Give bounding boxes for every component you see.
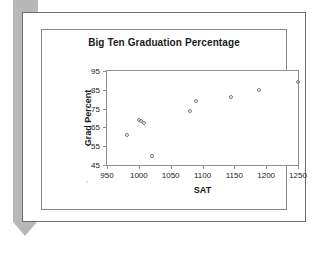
x-axis-tick bbox=[203, 165, 204, 169]
y-axis-tick bbox=[103, 127, 107, 128]
scatter-point bbox=[296, 80, 300, 84]
scatter-point bbox=[150, 154, 154, 158]
page-outer-frame: Big Ten Graduation Percentage Grad Perce… bbox=[22, 12, 306, 222]
scatter-point bbox=[229, 95, 233, 99]
plot-area: Grad Percent SAT 45556575859595010001050… bbox=[106, 70, 299, 166]
x-axis-tick-label: 1250 bbox=[289, 171, 307, 180]
y-axis-tick-label: 95 bbox=[91, 67, 100, 76]
scatter-point bbox=[125, 133, 129, 137]
x-axis-tick bbox=[107, 165, 108, 169]
scatter-point bbox=[257, 88, 261, 92]
y-axis-tick bbox=[103, 146, 107, 147]
chart-container: Big Ten Graduation Percentage Grad Perce… bbox=[41, 29, 287, 210]
y-axis-tick-label: 75 bbox=[91, 104, 100, 113]
x-axis-tick bbox=[298, 165, 299, 169]
y-axis-tick bbox=[103, 71, 107, 72]
x-axis-tick bbox=[266, 165, 267, 169]
scatter-point bbox=[194, 99, 198, 103]
scatter-point bbox=[188, 109, 192, 113]
x-axis-tick-label: 950 bbox=[100, 171, 113, 180]
x-axis-tick-label: 1100 bbox=[194, 171, 211, 180]
x-axis-tick-label: 1200 bbox=[257, 171, 275, 180]
y-axis-tick-label: 45 bbox=[91, 161, 100, 170]
scan-noise-speck bbox=[86, 181, 88, 183]
x-axis-tick-label: 1150 bbox=[226, 171, 243, 180]
y-axis-tick-label: 55 bbox=[91, 142, 100, 151]
y-axis-tick-label: 85 bbox=[91, 85, 100, 94]
chart-title: Big Ten Graduation Percentage bbox=[42, 37, 286, 48]
x-axis-tick-label: 1050 bbox=[162, 171, 180, 180]
x-axis-tick bbox=[171, 165, 172, 169]
x-axis-tick bbox=[139, 165, 140, 169]
x-axis-tick-label: 1000 bbox=[130, 171, 148, 180]
y-axis-tick bbox=[103, 90, 107, 91]
x-axis-tick bbox=[234, 165, 235, 169]
y-axis-tick bbox=[103, 109, 107, 110]
x-axis-title: SAT bbox=[107, 185, 298, 195]
scatter-point bbox=[142, 121, 146, 125]
scan-artifact-arrow-tip bbox=[13, 222, 37, 236]
y-axis-title: Grad Percent bbox=[83, 90, 93, 147]
y-axis-tick-label: 65 bbox=[91, 123, 100, 132]
